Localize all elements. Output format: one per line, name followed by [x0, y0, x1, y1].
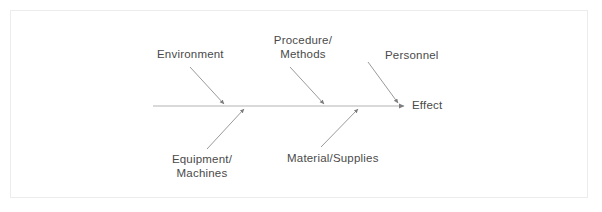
fishbone-diagram-figure: Environment Procedure/ Methods Personnel…	[0, 0, 602, 212]
label-procedure-methods-line1: Procedure/	[269, 33, 337, 47]
label-equipment-machines-line1: Equipment/	[167, 152, 237, 166]
label-equipment-machines-line2: Machines	[167, 166, 237, 180]
label-equipment-machines: Equipment/ Machines	[167, 152, 237, 180]
label-environment-line1: Environment	[157, 47, 224, 61]
branch-arrow-procedure-methods	[290, 67, 324, 104]
branch-arrow-material-supplies	[321, 109, 358, 147]
label-procedure-methods: Procedure/ Methods	[269, 33, 337, 61]
label-material-supplies-line1: Material/Supplies	[287, 151, 379, 165]
branch-arrow-environment	[190, 67, 224, 104]
label-effect: Effect	[412, 98, 442, 112]
label-procedure-methods-line2: Methods	[269, 47, 337, 61]
branch-arrow-personnel	[368, 62, 398, 103]
label-environment: Environment	[157, 47, 224, 61]
label-effect-text: Effect	[412, 98, 442, 112]
label-personnel: Personnel	[385, 48, 439, 62]
label-personnel-line1: Personnel	[385, 48, 439, 62]
branch-arrow-equipment-machines	[207, 109, 244, 149]
label-material-supplies: Material/Supplies	[287, 151, 379, 165]
fishbone-diagram-canvas	[0, 0, 602, 212]
